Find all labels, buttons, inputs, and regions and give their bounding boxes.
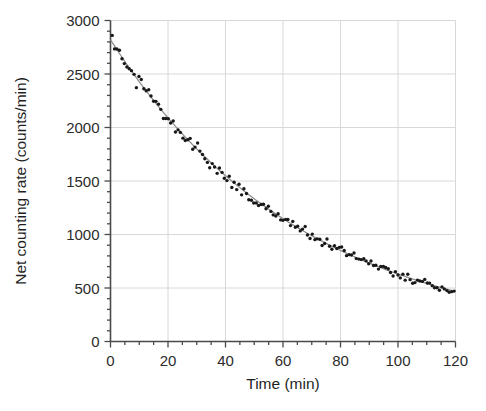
data-point xyxy=(413,281,416,284)
data-point xyxy=(250,199,253,202)
data-point xyxy=(330,248,333,251)
data-point xyxy=(369,259,372,262)
data-point xyxy=(318,238,321,241)
data-point xyxy=(232,181,235,184)
data-point xyxy=(303,225,306,228)
data-point xyxy=(264,207,267,210)
x-tick-label: 100 xyxy=(385,352,410,369)
data-point xyxy=(391,274,394,277)
data-point xyxy=(406,273,409,276)
data-point xyxy=(438,289,441,292)
data-point xyxy=(306,233,309,236)
data-point xyxy=(215,172,218,175)
data-point xyxy=(323,242,326,245)
x-tick-label: 120 xyxy=(443,352,468,369)
gridlines xyxy=(111,21,456,342)
x-axis-title: Time (min) xyxy=(246,375,319,392)
data-point xyxy=(198,149,201,152)
x-tick-label: 40 xyxy=(217,352,234,369)
data-point xyxy=(196,141,199,144)
data-point xyxy=(203,157,206,160)
data-point xyxy=(291,220,294,223)
y-tick-label: 3000 xyxy=(66,12,99,29)
data-point xyxy=(201,153,204,156)
data-point xyxy=(157,102,160,105)
data-point xyxy=(435,286,438,289)
figure-container: 050010001500200025003000020406080100120 … xyxy=(0,0,486,411)
data-point xyxy=(325,237,328,240)
data-point xyxy=(154,100,157,103)
data-point xyxy=(140,78,143,81)
data-point xyxy=(225,179,228,182)
y-tick-label: 1500 xyxy=(66,173,99,190)
data-point xyxy=(159,108,162,111)
y-tick-label: 2000 xyxy=(66,119,99,136)
data-point xyxy=(118,49,121,52)
data-point xyxy=(208,166,211,169)
data-point xyxy=(218,166,221,169)
data-point xyxy=(220,171,223,174)
data-point xyxy=(179,131,182,134)
data-point xyxy=(137,75,140,78)
data-point xyxy=(387,267,390,270)
y-axis-title: Net counting rate (counts/min) xyxy=(12,77,29,285)
data-point xyxy=(333,244,336,247)
data-point xyxy=(394,270,397,273)
data-point xyxy=(228,174,231,177)
data-point xyxy=(240,193,243,196)
x-tick-label: 80 xyxy=(332,352,349,369)
data-point xyxy=(396,273,399,276)
data-point xyxy=(423,278,426,281)
data-point xyxy=(213,165,216,168)
decay-chart: 050010001500200025003000020406080100120 … xyxy=(0,0,486,411)
data-point xyxy=(301,227,304,230)
data-point xyxy=(262,203,265,206)
data-point xyxy=(374,264,377,267)
data-point xyxy=(245,192,248,195)
y-tick-label: 0 xyxy=(91,333,99,350)
data-point xyxy=(130,69,133,72)
data-point xyxy=(223,177,226,180)
data-point xyxy=(276,212,279,215)
data-point xyxy=(340,245,343,248)
x-tick-label: 20 xyxy=(160,352,177,369)
data-point xyxy=(364,259,367,262)
data-point xyxy=(171,119,174,122)
data-point xyxy=(269,210,272,213)
data-point xyxy=(135,86,138,89)
data-point xyxy=(403,278,406,281)
data-point xyxy=(408,278,411,281)
data-point xyxy=(377,267,380,270)
data-point xyxy=(230,186,233,189)
data-point xyxy=(289,224,292,227)
data-point xyxy=(206,161,209,164)
data-point xyxy=(267,205,270,208)
y-tick-label: 2500 xyxy=(66,66,99,83)
data-point xyxy=(308,237,311,240)
data-point xyxy=(188,137,191,140)
data-point xyxy=(399,276,402,279)
data-point xyxy=(367,262,370,265)
data-point xyxy=(211,162,214,165)
data-point xyxy=(242,187,245,190)
x-tick-label: 60 xyxy=(275,352,292,369)
data-point xyxy=(296,224,299,227)
data-point xyxy=(120,57,123,60)
data-point xyxy=(352,251,355,254)
data-point xyxy=(428,281,431,284)
data-point xyxy=(123,62,126,65)
data-point xyxy=(132,73,135,76)
data-point xyxy=(401,272,404,275)
data-point xyxy=(167,117,170,120)
data-point xyxy=(235,188,238,191)
data-point xyxy=(174,130,177,133)
tick-marks xyxy=(105,21,456,348)
data-point xyxy=(452,289,455,292)
y-tick-label: 500 xyxy=(74,280,99,297)
data-point xyxy=(255,201,258,204)
data-point xyxy=(389,271,392,274)
data-point xyxy=(149,94,152,97)
data-point xyxy=(311,232,314,235)
data-point xyxy=(176,128,179,131)
data-point xyxy=(328,244,331,247)
